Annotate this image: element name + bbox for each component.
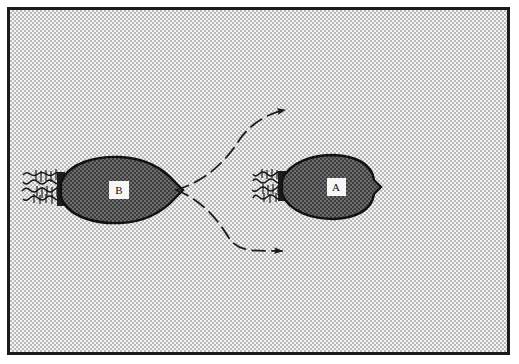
- organism-a-label: A: [332, 181, 340, 193]
- flagellum-icon: [23, 180, 62, 184]
- organism-b[interactable]: B: [22, 157, 183, 223]
- arrow-upper-path[interactable]: [176, 110, 285, 190]
- organism-a[interactable]: A: [252, 155, 381, 219]
- figure-root: B: [0, 0, 519, 364]
- diagram-svg: B: [10, 10, 507, 352]
- organism-b-label: B: [115, 184, 123, 196]
- arrow-lower-path[interactable]: [176, 190, 282, 251]
- figure-frame: B: [7, 7, 510, 355]
- organism-b-flagella: [22, 169, 65, 206]
